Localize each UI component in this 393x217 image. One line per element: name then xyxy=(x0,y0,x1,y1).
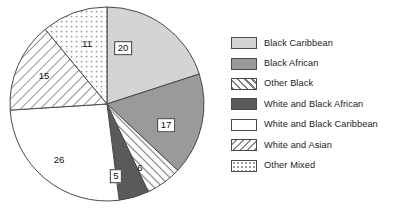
legend-item-label: Black African xyxy=(264,59,318,68)
legend-swatch-icon xyxy=(231,98,257,110)
pie-slice-value-label: 5 xyxy=(110,169,122,183)
legend-item[interactable]: Black African xyxy=(231,53,393,73)
legend-item[interactable]: Other Black xyxy=(231,74,393,94)
legend-item[interactable]: White and Black Caribbean xyxy=(231,115,393,135)
legend-item[interactable]: White and Asian xyxy=(231,135,393,155)
legend-swatch-icon xyxy=(231,139,257,151)
legend-item[interactable]: White and Black African xyxy=(231,94,393,114)
legend-item-label: Other Black xyxy=(264,79,313,88)
legend-item[interactable]: Other Mixed xyxy=(231,155,393,175)
legend-item-label: White and Black Caribbean xyxy=(264,120,378,129)
pie-slices-group xyxy=(10,7,204,201)
legend-swatch-icon xyxy=(231,119,257,131)
pie-slice-value-label: 17 xyxy=(157,118,175,132)
legend-item-label: White and Black African xyxy=(264,100,363,109)
chart-legend: Black CaribbeanBlack AfricanOther BlackW… xyxy=(231,33,393,176)
pie-chart-figure: 201765261511 Black CaribbeanBlack Africa… xyxy=(0,0,393,217)
pie-chart-svg xyxy=(0,0,215,217)
legend-swatch-icon xyxy=(231,58,257,70)
pie-slice-value-label: 11 xyxy=(80,38,94,50)
pie-chart-plot-area: 201765261511 xyxy=(0,0,215,217)
legend-swatch-icon xyxy=(231,78,257,90)
pie-slice-value-label: 15 xyxy=(37,70,52,82)
pie-slice xyxy=(10,104,119,201)
pie-slice-value-label: 26 xyxy=(52,154,67,166)
legend-swatch-icon xyxy=(231,37,257,49)
pie-slice-value-label: 20 xyxy=(114,41,132,55)
legend-item[interactable]: Black Caribbean xyxy=(231,33,393,53)
legend-item-label: Other Mixed xyxy=(264,161,315,170)
pie-slice-value-label: 6 xyxy=(135,162,144,174)
legend-swatch-icon xyxy=(231,160,257,172)
legend-item-label: White and Asian xyxy=(264,141,332,150)
legend-item-label: Black Caribbean xyxy=(264,39,333,48)
